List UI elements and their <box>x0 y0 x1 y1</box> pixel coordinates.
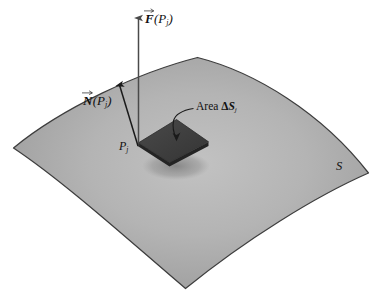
area-label-prefix: Area <box>196 100 218 112</box>
area-label-symbol: S <box>228 100 234 112</box>
area-element-label: Area ΔSj <box>196 101 237 113</box>
force-arg-close: ) <box>168 11 172 26</box>
normal-vector-label: N(Pj) <box>83 94 112 107</box>
surface-flux-diagram: F(Pj) N(Pj) Pj Area ΔSj S <box>0 0 376 304</box>
normal-arg-close: ) <box>107 93 111 108</box>
area-label-subscript: j <box>235 106 237 114</box>
surface-label: S <box>336 160 342 173</box>
normal-arg-symbol: P <box>97 93 105 108</box>
force-vector-label: F(Pj) <box>145 12 173 25</box>
normal-vector-symbol: N <box>83 94 93 107</box>
diagram-canvas <box>0 0 376 304</box>
normal-arg-subscript: j <box>105 100 107 109</box>
force-vector-symbol: F <box>145 12 154 25</box>
point-label: Pj <box>119 140 128 152</box>
